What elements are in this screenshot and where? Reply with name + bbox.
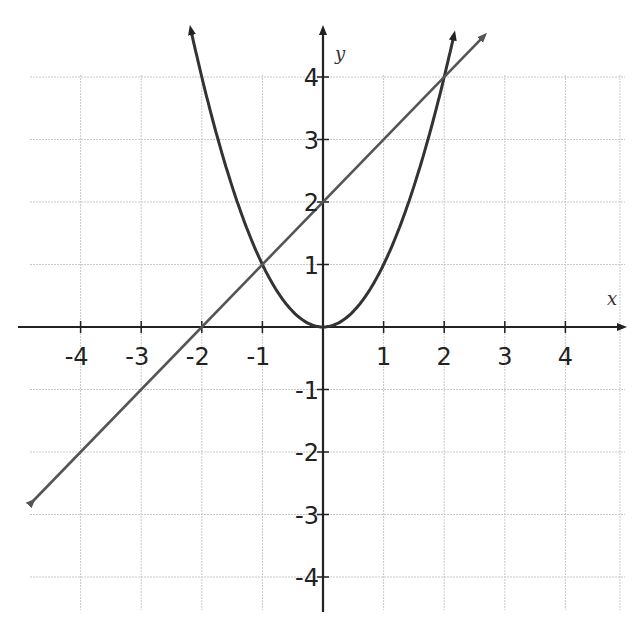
y-axis-label: y: [334, 43, 346, 64]
x-tick-label: -1: [246, 343, 270, 371]
arrow-icon: [453, 35, 454, 40]
x-tick-label: 2: [437, 343, 452, 371]
grid-lines: [30, 75, 625, 610]
y-tick-label: -2: [295, 439, 319, 467]
y-tick-label: 2: [304, 189, 319, 217]
y-tick-label: 4: [304, 64, 319, 92]
axes: [18, 30, 622, 612]
tick-labels: -4-3-2-112344321-1-2-3-4xy: [65, 43, 617, 592]
y-tick-label: -1: [295, 377, 319, 405]
plot-series: [32, 30, 483, 502]
x-tick-label: 4: [558, 343, 573, 371]
y-tick-label: -4: [295, 564, 319, 592]
y-tick-label: -3: [295, 502, 319, 530]
x-tick-label: 1: [376, 343, 391, 371]
y-tick-label: 3: [304, 127, 319, 155]
function-graph: -4-3-2-112344321-1-2-3-4xy: [0, 0, 639, 644]
linear-line: [32, 36, 483, 502]
y-tick-label: 1: [304, 252, 319, 280]
x-tick-label: -3: [125, 343, 149, 371]
x-tick-label: -4: [65, 343, 89, 371]
x-axis-label: x: [607, 288, 617, 309]
x-tick-label: -2: [186, 343, 210, 371]
x-tick-label: 3: [497, 343, 512, 371]
arrow-icon: [191, 30, 192, 35]
